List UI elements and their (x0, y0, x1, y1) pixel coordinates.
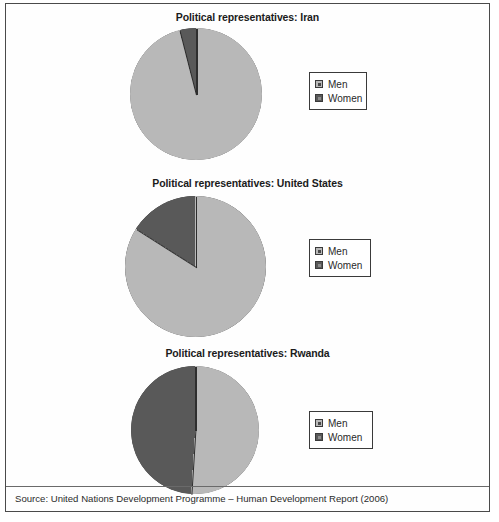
source-divider (6, 486, 489, 487)
chart-block-rwanda: Political representatives: Rwanda Men Wo… (6, 344, 489, 486)
legend-rwanda: Men Women (309, 411, 373, 449)
legend-item-women[interactable]: Women (315, 430, 365, 444)
legend-label-women: Women (328, 260, 362, 271)
pie-chart-rwanda (131, 366, 259, 494)
legend-label-men: Men (328, 246, 347, 257)
legend-label-women: Women (328, 93, 362, 104)
figure-frame: Political representatives: Iran Men Wome… (5, 3, 490, 512)
legend-item-men[interactable]: Men (315, 244, 363, 258)
legend-iran: Men Women (309, 72, 367, 110)
legend-swatch-women-icon (315, 261, 323, 269)
pie-slice-divider (195, 367, 196, 431)
legend-swatch-men-icon (315, 247, 323, 255)
legend-swatch-women-icon (315, 433, 323, 441)
chart-block-iran: Political representatives: Iran Men Wome… (6, 4, 489, 172)
pie-slice-divider (196, 29, 197, 95)
chart-block-united-states: Political representatives: United States… (6, 172, 489, 344)
legend-united-states: Men Women (309, 239, 371, 277)
legend-swatch-men-icon (315, 419, 323, 427)
chart-title-iran: Political representatives: Iran (6, 11, 489, 23)
legend-swatch-women-icon (315, 94, 323, 102)
legend-item-men[interactable]: Men (315, 416, 365, 430)
pie-chart-united-states (125, 196, 266, 337)
legend-label-men: Men (328, 79, 347, 90)
pie-chart-iran (130, 28, 262, 160)
pie-slice-divider (196, 197, 197, 268)
legend-item-women[interactable]: Women (315, 91, 359, 105)
legend-item-women[interactable]: Women (315, 258, 363, 272)
legend-label-women: Women (328, 432, 362, 443)
chart-title-united-states: Political representatives: United States (6, 177, 489, 189)
legend-label-men: Men (328, 418, 347, 429)
chart-title-rwanda: Political representatives: Rwanda (6, 347, 489, 359)
legend-swatch-men-icon (315, 80, 323, 88)
source-note: Source: United Nations Development Progr… (15, 493, 388, 504)
legend-item-men[interactable]: Men (315, 77, 359, 91)
